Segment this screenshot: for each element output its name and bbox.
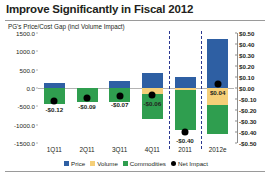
right-axis-tick: -$0.10 <box>239 96 257 103</box>
volume-swatch <box>90 161 95 166</box>
right-axis-tick: $0.50 <box>239 30 254 37</box>
right-axis-tick: -$0.30 <box>239 118 257 125</box>
price-swatch <box>64 161 69 166</box>
right-axis-tick: $0.00 <box>239 85 254 92</box>
left-axis-tick-mark <box>36 51 38 52</box>
left-axis-tick-mark <box>36 88 38 89</box>
x-axis-label: 2012e <box>209 146 227 153</box>
right-axis-tick-mark <box>235 33 237 34</box>
bar-segment-comm <box>175 90 196 130</box>
right-axis-tick-mark <box>235 132 237 133</box>
left-axis-tick-mark <box>36 106 38 107</box>
right-axis-tick-mark <box>235 77 237 78</box>
x-axis-label: 4Q11 <box>145 146 160 153</box>
net-impact-dot <box>84 94 91 101</box>
bar-segment-price <box>109 81 130 88</box>
chart-plot-area: 1500.01000.0500.00.0-500.0-1000.0-1500.0… <box>38 33 234 143</box>
bar-4Q11[interactable] <box>142 33 163 143</box>
legend-label: Price <box>71 160 85 167</box>
bar-segment-price <box>175 77 196 88</box>
left-axis-tick: 500.0 <box>20 66 35 73</box>
right-axis-tick-mark <box>235 88 237 89</box>
net-impact-swatch <box>171 161 176 166</box>
right-axis-tick: $0.10 <box>239 74 254 81</box>
bar-1Q11[interactable] <box>44 33 65 143</box>
left-axis-tick-mark <box>36 143 38 144</box>
right-axis-tick-mark <box>235 121 237 122</box>
right-axis-tick-mark <box>235 99 237 100</box>
net-impact-dot <box>182 129 189 136</box>
right-axis-tick: $0.30 <box>239 52 254 59</box>
page-title: Improve Significantly in Fiscal 2012 <box>6 3 193 15</box>
left-axis-tick: -1000.0 <box>14 121 35 128</box>
chart-legend: PriceVolumeCommoditiesNet Impact <box>38 160 234 167</box>
legend-label: Net Impact <box>178 160 208 167</box>
net-impact-label: -$0.40 <box>176 137 194 144</box>
x-axis-label: 3Q11 <box>112 146 127 153</box>
net-impact-label: -$0.06 <box>144 100 162 107</box>
left-axis-tick-mark <box>36 69 38 70</box>
x-axis-label: 2Q11 <box>79 146 94 153</box>
right-axis-tick: $0.20 <box>239 63 254 70</box>
right-axis-tick-mark <box>235 44 237 45</box>
legend-label: Commodities <box>130 160 166 167</box>
left-axis-tick: 1500.0 <box>16 30 35 37</box>
net-impact-label: -$0.09 <box>78 103 96 110</box>
slide: Improve Significantly in Fiscal 2012 PG'… <box>0 0 270 179</box>
net-impact-label: $0.04 <box>210 89 225 96</box>
net-impact-dot <box>149 91 156 98</box>
right-axis-line <box>237 33 238 143</box>
left-axis-tick-mark <box>36 124 38 125</box>
right-axis-tick-mark <box>235 66 237 67</box>
bar-2Q11[interactable] <box>77 33 98 143</box>
footer-divider <box>5 171 265 172</box>
x-axis-label: 1Q11 <box>47 146 62 153</box>
legend-label: Volume <box>97 160 118 167</box>
commodities-swatch <box>123 161 128 166</box>
net-impact-label: -$0.07 <box>111 101 129 108</box>
bar-2011[interactable] <box>175 33 196 143</box>
net-impact-dot <box>214 80 221 87</box>
right-axis-tick-mark <box>235 110 237 111</box>
right-axis-tick: $0.40 <box>239 41 254 48</box>
bar-3Q11[interactable] <box>109 33 130 143</box>
x-axis-label: 2011 <box>178 146 192 153</box>
right-axis-tick: -$0.40 <box>239 129 257 136</box>
left-axis-tick: 1000.0 <box>16 48 35 55</box>
left-axis-tick: -500.0 <box>17 103 35 110</box>
right-axis-tick-mark <box>235 55 237 56</box>
legend-item-price[interactable]: Price <box>64 160 85 167</box>
section-divider <box>169 31 170 149</box>
bar-segment-comm <box>207 105 228 134</box>
legend-item-commodities[interactable]: Commodities <box>123 160 166 167</box>
net-impact-label: -$0.12 <box>46 106 64 113</box>
left-axis-tick: -1500.0 <box>14 140 35 147</box>
legend-item-volume[interactable]: Volume <box>90 160 118 167</box>
title-divider <box>5 20 265 21</box>
left-axis-tick: 0.0 <box>26 85 35 92</box>
legend-item-net-impact[interactable]: Net Impact <box>171 160 208 167</box>
bar-segment-price <box>142 73 163 88</box>
right-axis-tick: -$0.20 <box>239 107 257 114</box>
zero-line <box>38 88 234 89</box>
net-impact-dot <box>51 98 58 105</box>
left-axis-tick-mark <box>36 33 38 34</box>
right-axis-tick: -$0.50 <box>239 140 257 147</box>
right-axis-tick-mark <box>235 143 237 144</box>
section-divider <box>201 31 202 149</box>
net-impact-dot <box>116 92 123 99</box>
